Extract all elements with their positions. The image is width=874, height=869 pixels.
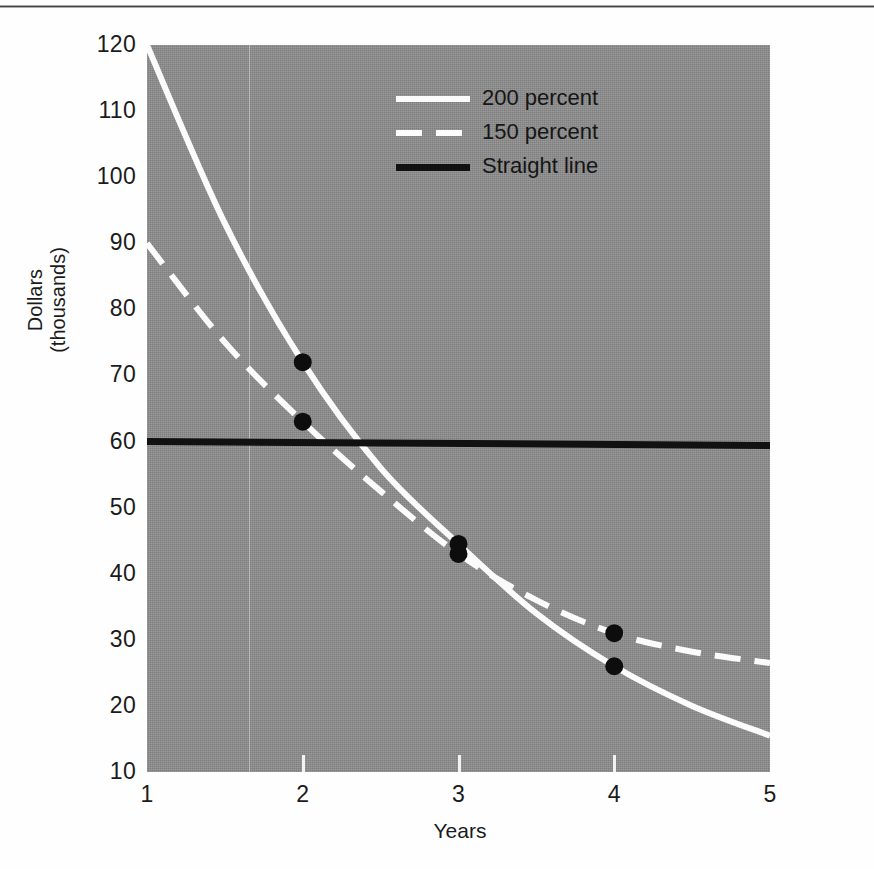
x-axis-tick-mark xyxy=(302,755,305,772)
y-axis-tick-label: 100 xyxy=(97,165,136,188)
figure-page: Dollars (thousands) 10203040506070809010… xyxy=(0,0,874,869)
x-axis-tick-label: 4 xyxy=(594,781,634,807)
series-line xyxy=(147,442,770,446)
data-point-marker xyxy=(294,353,312,371)
legend-label: Straight line xyxy=(482,153,598,179)
y-axis-tick-label: 70 xyxy=(110,363,136,386)
legend-item-straight-line: Straight line xyxy=(396,150,726,184)
y-axis-tick-label: 20 xyxy=(110,694,136,717)
y-axis-title: Dollars (thousands) xyxy=(24,220,64,380)
x-axis-tick-label: 3 xyxy=(439,781,479,807)
data-point-marker xyxy=(605,624,623,642)
y-axis-tick-labels: 102030405060708090100110120 xyxy=(82,0,136,869)
x-axis-tick-label: 2 xyxy=(283,781,323,807)
legend-label: 150 percent xyxy=(482,119,598,145)
y-axis-tick-label: 80 xyxy=(110,297,136,320)
data-point-marker xyxy=(294,413,312,431)
legend-swatch-solid-black-line xyxy=(396,164,470,171)
x-axis-title: Years xyxy=(0,819,874,843)
series-line xyxy=(147,243,770,663)
legend-item-150-percent: 150 percent xyxy=(396,116,726,150)
legend-item-200-percent: 200 percent xyxy=(396,82,726,116)
y-axis-tick-label: 30 xyxy=(110,628,136,651)
x-axis-tick-label: 5 xyxy=(750,781,790,807)
x-axis-tick-mark xyxy=(458,755,461,772)
chart-legend: 200 percent 150 percent Straight line xyxy=(396,82,726,184)
legend-swatch-solid-white-line xyxy=(396,96,470,102)
y-axis-tick-label: 110 xyxy=(98,99,136,122)
x-axis-tick-mark xyxy=(613,755,616,772)
data-point-marker xyxy=(450,545,468,563)
y-axis-tick-label: 120 xyxy=(97,33,136,56)
legend-label: 200 percent xyxy=(482,85,598,111)
y-axis-tick-label: 90 xyxy=(110,231,136,254)
legend-swatch-dashed-white-line xyxy=(396,130,470,136)
y-axis-tick-label: 40 xyxy=(110,562,136,585)
x-axis-tick-label: 1 xyxy=(127,781,167,807)
y-axis-tick-label: 10 xyxy=(110,760,136,783)
y-axis-tick-label: 50 xyxy=(110,496,136,519)
data-point-marker xyxy=(605,657,623,675)
y-axis-tick-label: 60 xyxy=(110,430,136,453)
